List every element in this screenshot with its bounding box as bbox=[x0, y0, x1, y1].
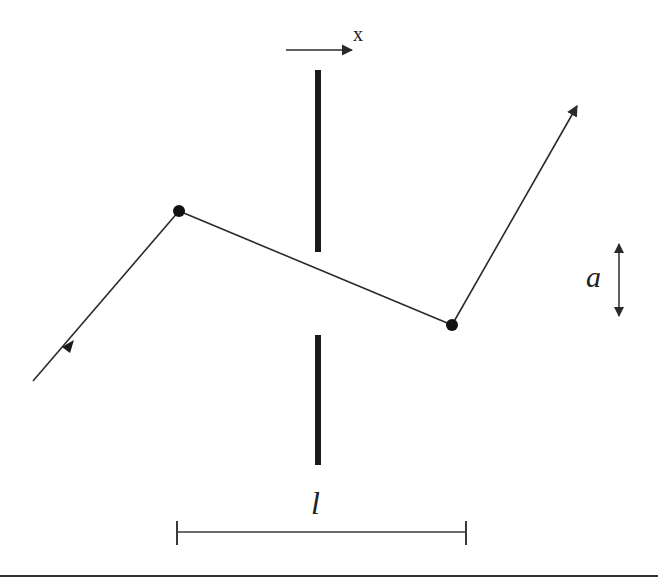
length-label: l bbox=[311, 485, 320, 521]
slit-diagram: x a l bbox=[0, 0, 658, 578]
barrier-upper bbox=[315, 70, 321, 252]
path-outgoing bbox=[452, 106, 577, 325]
length-bar bbox=[177, 521, 466, 545]
x-axis-label: x bbox=[353, 23, 363, 45]
node-right bbox=[446, 319, 458, 331]
displacement-label: a bbox=[586, 260, 601, 293]
particle-path bbox=[33, 106, 577, 381]
path-incoming bbox=[33, 211, 179, 381]
barrier-lower bbox=[315, 335, 321, 465]
incoming-direction-arrow-icon bbox=[62, 340, 74, 353]
node-left bbox=[173, 205, 185, 217]
